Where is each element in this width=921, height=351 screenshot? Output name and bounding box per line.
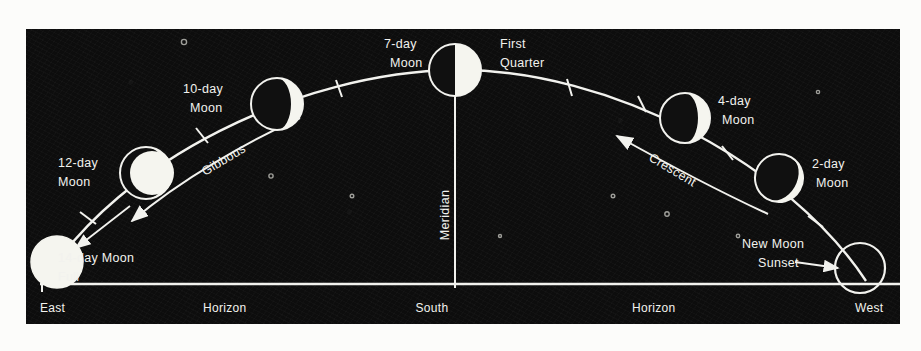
label-east: East [40, 301, 66, 315]
label-gibbous: Gibbous [199, 142, 248, 179]
label-2-day-line2: Moon [816, 176, 848, 190]
label-new-moon-line1: New Moon [742, 237, 804, 251]
label-crescent: Crescent [646, 151, 698, 190]
label-horizon-left: Horizon [203, 301, 246, 315]
label-4-day-line2: Moon [722, 113, 754, 127]
label-7-day-line2: Moon [390, 56, 422, 70]
label-first-quarter-line1: First [500, 37, 526, 51]
figure-canvas: 12-day Moon 10-day Moon 7-day Moon First… [0, 0, 921, 351]
label-west: West [855, 301, 884, 315]
label-horizon-right: Horizon [632, 301, 675, 315]
moon-4-day [660, 93, 710, 143]
moon-7-day [429, 44, 481, 96]
moon-10-day [251, 78, 303, 130]
label-first-quarter-line2: Quarter [500, 56, 544, 70]
label-7-day-line1: 7-day [384, 37, 417, 51]
label-2-day-line1: 2-day [812, 157, 845, 171]
moon-2-day [746, 145, 812, 211]
label-12-day-line2: Moon [58, 175, 90, 189]
label-4-day-line1: 4-day [718, 94, 751, 108]
moon-new [835, 243, 885, 293]
new-moon-leader [795, 262, 838, 268]
label-meridian: Meridian [438, 190, 452, 240]
label-14-day-line1: 14-day Moon [58, 251, 134, 265]
label-new-moon-line2: Sunset [758, 256, 799, 270]
label-south: South [416, 301, 449, 315]
moon-12-day [120, 147, 174, 199]
label-10-day-line1: 10-day [183, 82, 223, 96]
label-14-day-line2: Full [58, 270, 79, 284]
label-10-day-line2: Moon [190, 101, 222, 115]
moon-phase-diagram: 12-day Moon 10-day Moon 7-day Moon First… [0, 0, 921, 351]
label-12-day-line1: 12-day [58, 156, 98, 170]
